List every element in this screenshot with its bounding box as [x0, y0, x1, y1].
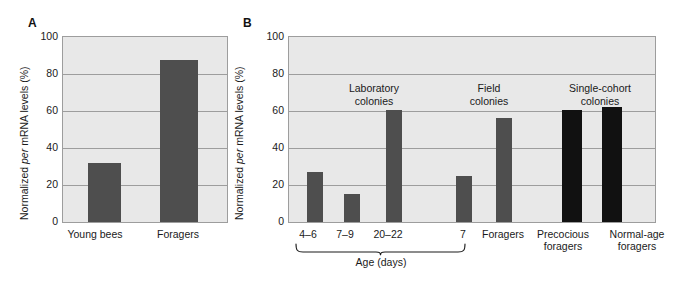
panel-a-ytick-60: 60 — [26, 105, 58, 116]
panel-b-ytick-80: 80 — [252, 68, 284, 79]
panel-b-ytick-0: 0 — [252, 216, 284, 227]
panel-a-ytick-80: 80 — [26, 68, 58, 79]
panel-b-y-axis-label: Normalized per mRNA levels (%) — [233, 67, 245, 220]
panel-b-gridline-20 — [289, 185, 655, 186]
bar-young-bees — [88, 163, 121, 223]
panel-b-xtick-normal-age-foragers-line1: Normal-age — [601, 228, 673, 240]
bar-precocious-foragers — [562, 110, 582, 222]
panel-b-plot-area: Laboratory colonies Field colonies Singl… — [288, 36, 656, 223]
figure-root: A Normalized per mRNA levels (%) 100 80 … — [0, 0, 683, 290]
panel-a-xtick-foragers: Foragers — [145, 228, 211, 240]
panel-a-xtick-young-bees: Young bees — [62, 228, 128, 240]
annotation-field-colonies-line2: colonies — [434, 95, 544, 108]
panel-b-ytick-40: 40 — [252, 142, 284, 153]
annotation-single-cohort-colonies-line2: colonies — [541, 95, 656, 108]
panel-b-gridline-80 — [289, 74, 655, 75]
panel-b-xtick-normal-age-foragers: Normal-age foragers — [601, 228, 673, 252]
panel-a-plot-area — [62, 36, 228, 223]
panel-b: B Normalized per mRNA levels (%) 100 80 … — [228, 0, 683, 290]
panel-b-xtick-foragers: Foragers — [471, 228, 535, 240]
panel-b-ytick-100: 100 — [252, 31, 284, 42]
panel-b-ytick-60: 60 — [252, 105, 284, 116]
panel-b-xtick-precocious-foragers-line2: foragers — [528, 240, 598, 252]
age-days-bracket-label: Age (days) — [324, 256, 438, 268]
panel-b-letter: B — [243, 16, 252, 30]
bar-age-20-22 — [386, 110, 402, 222]
bar-normal-age-foragers — [602, 107, 622, 222]
panel-a-gridline-80 — [63, 74, 227, 75]
panel-b-gridline-60 — [289, 111, 655, 112]
annotation-single-cohort-colonies: Single-cohort colonies — [541, 82, 656, 107]
bar-foragers — [160, 60, 198, 222]
panel-a: A Normalized per mRNA levels (%) 100 80 … — [0, 0, 240, 290]
bar-field-foragers — [496, 118, 512, 222]
annotation-field-colonies: Field colonies — [434, 82, 544, 107]
panel-a-ytick-100: 100 — [26, 31, 58, 42]
annotation-laboratory-colonies: Laboratory colonies — [319, 82, 429, 107]
annotation-laboratory-colonies-line2: colonies — [319, 95, 429, 108]
panel-b-xtick-precocious-foragers: Precocious foragers — [528, 228, 598, 252]
panel-b-y-axis-label-italic: per — [233, 149, 245, 164]
annotation-laboratory-colonies-line1: Laboratory — [319, 82, 429, 95]
panel-b-ytick-20: 20 — [252, 179, 284, 190]
bar-age-7-field — [456, 176, 472, 223]
panel-a-ytick-40: 40 — [26, 142, 58, 153]
panel-a-ytick-20: 20 — [26, 179, 58, 190]
panel-a-gridline-60 — [63, 111, 227, 112]
panel-b-gridline-40 — [289, 148, 655, 149]
panel-b-y-axis-label-suffix: mRNA levels (%) — [233, 67, 245, 149]
annotation-single-cohort-colonies-line1: Single-cohort — [541, 82, 656, 95]
panel-a-y-axis-label-prefix: Normalized — [18, 164, 30, 220]
panel-a-gridline-40 — [63, 148, 227, 149]
panel-a-ytick-0: 0 — [26, 216, 58, 227]
panel-b-xtick-20-22: 20–22 — [359, 228, 417, 240]
age-days-bracket — [294, 243, 467, 256]
bar-age-4-6 — [307, 172, 323, 222]
panel-a-letter: A — [28, 16, 37, 30]
panel-b-y-axis-label-prefix: Normalized — [233, 164, 245, 220]
annotation-field-colonies-line1: Field — [434, 82, 544, 95]
bar-age-7-9 — [344, 194, 360, 222]
panel-b-xtick-precocious-foragers-line1: Precocious — [528, 228, 598, 240]
panel-b-xtick-normal-age-foragers-line2: foragers — [601, 240, 673, 252]
